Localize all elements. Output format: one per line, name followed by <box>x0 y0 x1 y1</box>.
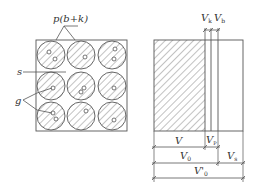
pore-label: g <box>15 95 21 106</box>
aggregate-packing-figure: p(b+k) s g <box>15 13 127 131</box>
dimension-row-1 <box>152 145 220 149</box>
solid-volume-region <box>154 40 205 131</box>
vb-label: Vb <box>214 12 225 24</box>
v0-label: V0 <box>180 150 191 162</box>
particle <box>67 72 95 100</box>
vs-label: Vs <box>227 150 237 162</box>
particle <box>37 41 65 69</box>
particle <box>67 41 95 69</box>
vk-label: Vk <box>201 12 212 24</box>
volume-composition-figure: Vk Vb V VP <box>152 12 245 182</box>
particle-leader-right <box>64 26 75 40</box>
dimension-row-3 <box>152 176 245 180</box>
pore-leader-top <box>23 93 37 100</box>
particle <box>98 41 126 69</box>
particle-grid <box>37 41 126 130</box>
gap-label: s <box>17 66 22 77</box>
particle <box>67 102 95 130</box>
vp-label: VP <box>206 134 217 146</box>
v-label: V <box>175 135 184 146</box>
porosity-diagram: p(b+k) s g Vk Vb <box>0 0 262 191</box>
particle <box>37 102 65 130</box>
v0-prime-label: V'0 <box>194 165 208 177</box>
particle <box>37 72 65 100</box>
particle-label: p(b+k) <box>53 13 88 24</box>
particle-leader-left <box>56 26 64 40</box>
particle <box>98 72 126 100</box>
particle <box>98 102 126 130</box>
pore-leader-bottom <box>23 100 37 110</box>
